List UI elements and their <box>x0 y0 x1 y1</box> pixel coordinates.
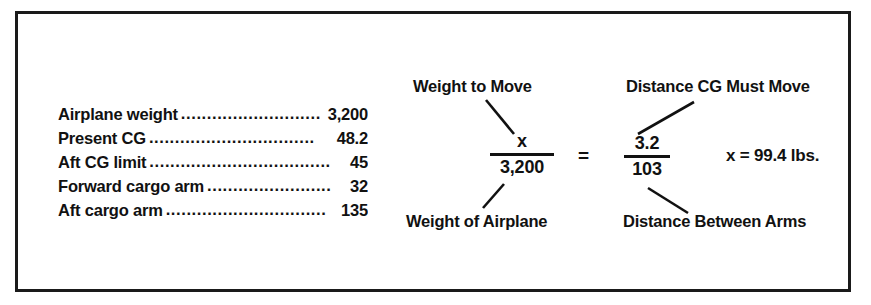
label-distance-cg-must-move: Distance CG Must Move <box>626 76 810 96</box>
list-item-label: Aft CG limit <box>58 150 149 174</box>
dot-leader: ........................ <box>207 174 350 197</box>
label-distance-between-arms: Distance Between Arms <box>623 211 806 231</box>
list-item-value: 135 <box>341 198 368 222</box>
dot-leader: ............................... <box>166 198 341 221</box>
list-item-label: Airplane weight <box>58 102 181 126</box>
list-item: Aft cargo arm ..........................… <box>58 198 368 222</box>
left-fraction-numerator: x <box>490 132 554 152</box>
dot-leader: ................................ <box>149 126 337 149</box>
leader-line-weight-to-move <box>486 100 514 134</box>
label-weight-to-move: Weight to Move <box>413 76 532 96</box>
right-fraction-numerator: 3.2 <box>624 134 670 154</box>
list-item-value: 32 <box>350 174 368 198</box>
list-item-label: Present CG <box>58 126 149 150</box>
right-fraction: 3.2 103 <box>624 134 670 179</box>
figure-border-frame: Airplane weight ........................… <box>15 11 851 292</box>
list-item-label: Aft cargo arm <box>58 198 166 222</box>
list-item-label: Forward cargo arm <box>58 174 207 198</box>
right-fraction-denominator: 103 <box>624 159 670 179</box>
left-fraction-denominator: 3,200 <box>490 157 554 177</box>
result-expression: x = 99.4 lbs. <box>726 145 819 167</box>
left-fraction: x 3,200 <box>490 132 554 177</box>
list-item: Aft CG limit ...........................… <box>58 150 368 174</box>
list-item-value: 48.2 <box>337 126 368 150</box>
equals-sign: = <box>578 145 589 167</box>
leader-line-distance-cg-must-move <box>638 102 694 134</box>
dot-leader: ........................... <box>181 102 328 125</box>
right-fraction-bar <box>624 155 670 158</box>
list-item: Airplane weight ........................… <box>58 102 368 126</box>
dot-leader: ................................... <box>149 150 350 173</box>
given-values-list: Airplane weight ........................… <box>58 102 368 222</box>
list-item-value: 45 <box>350 150 368 174</box>
left-fraction-bar <box>490 153 554 156</box>
leader-line-weight-of-airplane <box>483 184 504 208</box>
figure-root: Airplane weight ........................… <box>0 0 871 305</box>
list-item-value: 3,200 <box>328 102 368 126</box>
proportion-formula-diagram: Weight to Move Weight of Airplane Distan… <box>398 14 858 295</box>
label-weight-of-airplane: Weight of Airplane <box>406 211 547 231</box>
leader-line-distance-between-arms <box>648 188 688 213</box>
list-item: Present CG .............................… <box>58 126 368 150</box>
list-item: Forward cargo arm ......................… <box>58 174 368 198</box>
